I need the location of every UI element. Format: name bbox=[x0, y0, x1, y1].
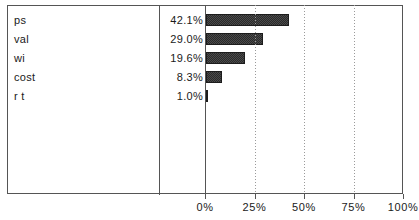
label-value-divider bbox=[159, 5, 160, 195]
axis-tick-label: 0% bbox=[196, 201, 213, 213]
value-label: 1.0% bbox=[163, 87, 203, 106]
category-label: val bbox=[14, 30, 29, 49]
value-label: 29.0% bbox=[163, 30, 203, 49]
category-label: wi bbox=[14, 49, 25, 68]
bar bbox=[206, 14, 289, 26]
value-label: 19.6% bbox=[163, 49, 203, 68]
category-label: r t bbox=[14, 87, 25, 106]
bar bbox=[206, 90, 208, 102]
axis-tick-label: 25% bbox=[243, 201, 267, 213]
category-label-column: psvalwicostr t bbox=[14, 5, 154, 194]
axis-tick bbox=[403, 194, 404, 199]
plot-area bbox=[205, 5, 403, 194]
bar bbox=[206, 52, 245, 64]
category-label: cost bbox=[14, 68, 35, 87]
horizontal-bar-chart: psvalwicostr t 42.1%29.0%19.6%8.3%1.0% 0… bbox=[0, 0, 419, 220]
axis-tick bbox=[354, 194, 355, 199]
axis-tick bbox=[205, 194, 206, 199]
gridline bbox=[354, 5, 355, 194]
axis-tick-label: 75% bbox=[342, 201, 366, 213]
gridline bbox=[304, 5, 305, 194]
category-label: ps bbox=[14, 11, 26, 30]
axis-tick-label: 50% bbox=[292, 201, 316, 213]
axis-tick bbox=[304, 194, 305, 199]
bar bbox=[206, 71, 222, 83]
value-label: 8.3% bbox=[163, 68, 203, 87]
value-label: 42.1% bbox=[163, 11, 203, 30]
gridline bbox=[255, 5, 256, 194]
axis-tick bbox=[255, 194, 256, 199]
axis-tick-label: 100% bbox=[388, 201, 419, 213]
value-label-column: 42.1%29.0%19.6%8.3%1.0% bbox=[163, 5, 203, 194]
